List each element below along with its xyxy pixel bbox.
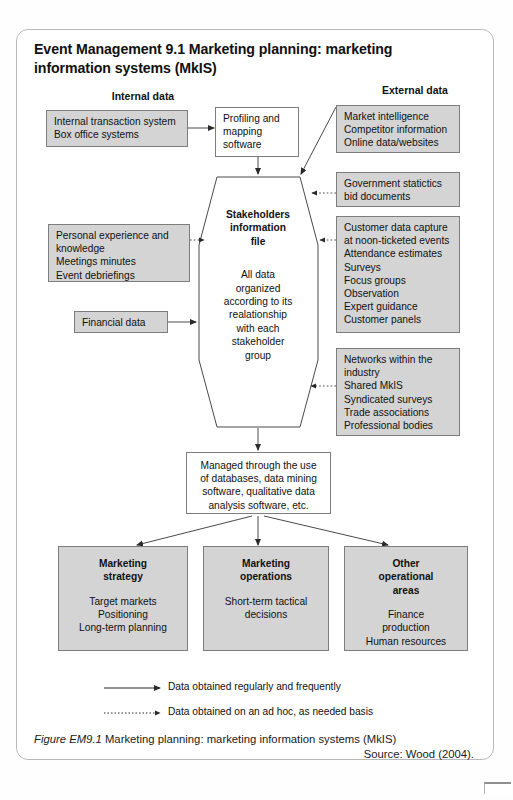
box-other-operational-areas: Otheroperationalareas FinanceproductionH… bbox=[344, 546, 468, 651]
hexagon-body: All dataorganizedaccording to itsrealati… bbox=[205, 268, 311, 362]
figure-caption: Figure EM9.1 Marketing planning: marketi… bbox=[34, 731, 474, 748]
heading-external-data: External data bbox=[350, 84, 480, 96]
box-marketing-strategy-body: Target marketsPositioningLong-term plann… bbox=[65, 595, 181, 635]
hexagon-stakeholders-information-file: Stakeholdersinformationfile All dataorga… bbox=[205, 208, 311, 362]
legend-label-solid: Data obtained regularly and frequently bbox=[168, 681, 341, 692]
box-government-statistics: Government staticticsbid documents bbox=[336, 172, 460, 207]
heading-internal-data: Internal data bbox=[58, 90, 228, 102]
legend-label-dotted: Data obtained on an ad hoc, as needed ba… bbox=[168, 706, 373, 717]
page-edge-mark bbox=[484, 782, 511, 794]
box-personal-experience: Personal experience and knowledgeMeeting… bbox=[48, 224, 190, 282]
box-managed-through: Managed through the use of databases, da… bbox=[186, 452, 331, 514]
box-marketing-operations-body: Short-term tacticaldecisions bbox=[210, 595, 322, 621]
hexagon-title: Stakeholdersinformationfile bbox=[205, 208, 311, 248]
box-other-operational-areas-body: FinanceproductionHuman resources bbox=[351, 608, 461, 648]
box-marketing-operations-title: Marketingoperations bbox=[210, 557, 322, 584]
box-marketing-operations: Marketingoperations Short-term tacticald… bbox=[203, 546, 329, 651]
box-internal-transaction-system: Internal transaction systemBox office sy… bbox=[46, 110, 188, 147]
box-profiling-mapping-software: Profiling and mapping software bbox=[215, 107, 299, 157]
box-marketing-strategy-title: Marketingstrategy bbox=[65, 557, 181, 584]
box-market-intelligence: Market intelligenceCompetitor informatio… bbox=[336, 105, 460, 153]
box-other-operational-areas-title: Otheroperationalareas bbox=[351, 557, 461, 597]
box-marketing-strategy: Marketingstrategy Target marketsPosition… bbox=[58, 546, 188, 651]
figure-page: Event Management 9.1 Marketing planning:… bbox=[0, 0, 513, 800]
figure-caption-text: Marketing planning: marketing informatio… bbox=[102, 733, 396, 745]
box-networks-within-industry: Networks within theindustryShared MkISSy… bbox=[336, 348, 460, 436]
box-customer-data-capture: Customer data captureat noon-ticketed ev… bbox=[336, 216, 460, 333]
page-title: Event Management 9.1 Marketing planning:… bbox=[34, 40, 466, 78]
figure-number: Figure EM9.1 bbox=[34, 733, 102, 745]
figure-source: Source: Wood (2004). bbox=[34, 748, 474, 760]
box-financial-data: Financial data bbox=[74, 311, 168, 333]
